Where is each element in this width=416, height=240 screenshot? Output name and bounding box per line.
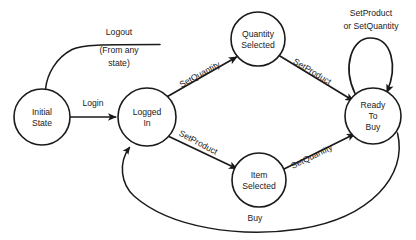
self-loop-ready-to-buy-edge-path: [349, 38, 392, 94]
ready-to-buy-label-line-2: To: [368, 111, 377, 121]
set-quantity-item-selected-label: SetQuantity: [289, 142, 334, 171]
item-selected-label-line-2: Selected: [242, 181, 276, 191]
transition-label-login: Login: [82, 98, 103, 108]
state-node-logged-in[interactable]: Logged In: [118, 88, 176, 146]
set-quantity-logged-in-label: SetQuantity: [178, 59, 223, 90]
state-diagram-canvas: Initial State Logged In Quantity Selecte…: [0, 0, 416, 240]
transition-label-self-loop-ready-to-buy: SetProduct or SetQuantity: [344, 8, 400, 31]
item-selected-label-line-1: Item: [251, 170, 268, 180]
ready-to-buy-label-line-1: Ready: [361, 100, 387, 110]
quantity-selected-label-line-2: Selected: [241, 40, 275, 50]
initial-state-label-line-1: Initial: [32, 107, 52, 117]
buy-label: Buy: [248, 213, 264, 223]
logout-label-line-1: Logout: [106, 27, 133, 37]
logout-label-line-2: (From any: [99, 45, 139, 55]
transition-self-loop-ready-to-buy: [349, 38, 392, 94]
self-loop-ready-to-buy-label-line-2: or SetQuantity: [344, 21, 400, 31]
state-node-initial-state[interactable]: Initial State: [14, 89, 70, 145]
initial-state-label-line-2: State: [32, 118, 52, 128]
transition-label-logout: Logout (From any state): [99, 27, 139, 68]
ready-to-buy-label-line-3: Buy: [366, 122, 382, 132]
transition-label-set-quantity-item-selected: SetQuantity: [289, 142, 334, 171]
set-product-quantity-selected-label: SetProduct: [292, 56, 334, 87]
state-node-quantity-selected[interactable]: Quantity Selected: [231, 12, 285, 66]
transition-label-buy: Buy: [248, 213, 264, 223]
logged-in-label-line-2: In: [143, 118, 150, 128]
state-node-ready-to-buy[interactable]: Ready To Buy: [345, 88, 401, 144]
transition-label-set-product-quantity-selected: SetProduct: [292, 56, 334, 87]
quantity-selected-label-line-1: Quantity: [242, 29, 275, 39]
logout-label-line-3: state): [108, 58, 130, 68]
transition-label-set-product-logged-in: SetProduct: [177, 128, 220, 157]
state-diagram-svg: Initial State Logged In Quantity Selecte…: [0, 0, 416, 240]
state-node-item-selected[interactable]: Item Selected: [232, 153, 286, 207]
logged-in-label-line-1: Logged: [133, 107, 162, 117]
self-loop-ready-to-buy-label-line-1: SetProduct: [350, 8, 393, 18]
set-product-logged-in-label: SetProduct: [177, 128, 220, 157]
login-label: Login: [82, 98, 103, 108]
transition-label-set-quantity-logged-in: SetQuantity: [178, 59, 223, 90]
